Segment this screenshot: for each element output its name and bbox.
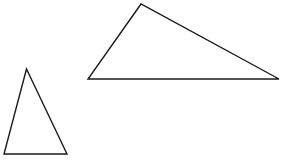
diagram-canvas xyxy=(0,0,297,163)
small-triangle xyxy=(4,69,67,154)
large-triangle xyxy=(88,4,279,79)
